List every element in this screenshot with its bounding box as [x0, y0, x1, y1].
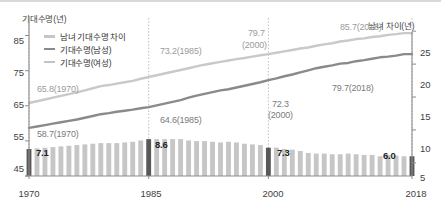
- bar-2003: [290, 150, 295, 176]
- annotation-male-2000-value: 72.3: [272, 99, 289, 109]
- legend-label-gap: 남녀 기대수명 차이: [60, 30, 126, 42]
- bar-1983: [130, 142, 135, 176]
- annotation-gap-2018: 6.0: [383, 150, 396, 161]
- bar-2009: [338, 154, 343, 176]
- bar-1979: [98, 143, 103, 176]
- annotation-male-1985: 64.6(1985): [160, 115, 202, 125]
- annotation-female-1985: 73.2(1985): [160, 46, 202, 56]
- bar-1977: [82, 144, 87, 176]
- bar-2007: [322, 154, 327, 176]
- bar-1981: [114, 143, 119, 176]
- x-axis-tick-2000: 2000: [253, 188, 293, 199]
- bar-1984: [138, 140, 143, 176]
- legend-item-gap[interactable]: 남녀 기대수명 차이: [44, 30, 126, 42]
- bar-1975: [66, 146, 71, 176]
- annotation-female-2018: 85.7(2018): [340, 22, 382, 32]
- bar-2011: [354, 154, 359, 176]
- bar-1978: [90, 144, 95, 176]
- chart-root: 기대수명(년) 남녀 차이(년) 85 75 65 55 45 25 20 15…: [0, 0, 441, 205]
- legend-bar-swatch-icon: [44, 35, 55, 38]
- annotation-male-1970: 58.7(1970): [37, 129, 79, 139]
- bar-2006: [314, 154, 319, 176]
- annotation-female-1970: 65.8(1970): [37, 84, 79, 94]
- bar-2000: [266, 148, 271, 176]
- x-axis-tick-1985: 1985: [131, 188, 171, 199]
- annotation-gap-2000: 7.3: [277, 147, 290, 158]
- bar-1976: [74, 145, 79, 176]
- bar-1982: [122, 142, 127, 176]
- bar-2008: [330, 154, 335, 176]
- x-axis-tick-1970: 1970: [9, 188, 49, 199]
- annotation-gap-1970: 7.1: [36, 147, 49, 158]
- legend-item-female[interactable]: 기대수명(여성): [44, 56, 126, 68]
- x-axis-tick-2018: 2018: [396, 188, 436, 199]
- legend: 남녀 기대수명 차이 기대수명(남성) 기대수명(여성): [44, 30, 126, 69]
- bar-2005: [306, 153, 311, 176]
- bar-1988: [170, 139, 175, 176]
- bar-2014: [378, 156, 383, 176]
- legend-label-male: 기대수명(남성): [60, 43, 111, 55]
- bar-1973: [51, 147, 56, 176]
- legend-female-line-swatch-icon: [44, 61, 55, 63]
- legend-item-male[interactable]: 기대수명(남성): [44, 43, 126, 55]
- bar-1998: [250, 144, 255, 176]
- annotation-female-2000-value: 79.7: [248, 28, 265, 38]
- bar-2012: [362, 155, 367, 176]
- annotation-male-2000-year: (2000): [268, 110, 293, 120]
- bar-1990: [186, 140, 191, 176]
- legend-label-female: 기대수명(여성): [60, 56, 111, 68]
- bar-1992: [202, 141, 207, 176]
- bar-1989: [178, 139, 183, 176]
- bar-1999: [258, 145, 263, 176]
- bar-1993: [210, 142, 215, 176]
- bar-1996: [234, 142, 239, 176]
- annotation-male-2018: 79.7(2018): [332, 83, 374, 93]
- annotation-female-2000-year: (2000): [242, 40, 267, 50]
- bar-1997: [242, 144, 247, 176]
- bar-2013: [370, 155, 375, 176]
- bar-2004: [298, 151, 303, 176]
- legend-male-line-swatch-icon: [44, 48, 55, 50]
- bar-1995: [226, 142, 231, 176]
- bar-1974: [58, 146, 63, 176]
- bar-2010: [346, 154, 351, 176]
- annotation-gap-1985: 8.6: [155, 139, 168, 150]
- bar-1985: [146, 139, 151, 176]
- bar-1991: [194, 141, 199, 176]
- bar-1994: [218, 142, 223, 176]
- bar-2017: [402, 156, 407, 176]
- bar-1980: [106, 143, 111, 176]
